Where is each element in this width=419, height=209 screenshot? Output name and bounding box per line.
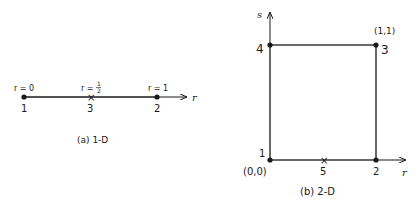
square-element [270, 45, 376, 160]
node-3-param-denominator: 2 [97, 87, 101, 94]
node-2-label-2d: 2 [373, 166, 379, 177]
s-axis-label: s [257, 9, 262, 20]
node-1-coord: (0,0) [243, 166, 267, 177]
node-3-dot [373, 42, 378, 47]
diagram-canvas: r r = 0 1 × r = 1 2 3 r = 1 2 (a) 1-D s … [0, 0, 419, 209]
node-1-param: r = 0 [14, 84, 34, 93]
node-2-param: r = 1 [148, 84, 168, 93]
caption-1d: (a) 1-D [77, 135, 108, 145]
r-axis-label-1d: r [192, 92, 198, 103]
r-axis-label-2d: r [402, 167, 408, 178]
node-1-dot [21, 94, 26, 99]
node-2-dot-2d [373, 157, 378, 162]
node-1-label: 1 [21, 103, 27, 114]
node-5-label: 5 [320, 166, 326, 177]
node-4-label: 4 [256, 42, 264, 56]
diagram-1d: r r = 0 1 × r = 1 2 3 r = 1 2 (a) 1-D [14, 80, 198, 145]
node-5-x-marker: × [320, 155, 328, 166]
node-1-dot-2d [267, 157, 272, 162]
node-1-label-2d: 1 [259, 148, 265, 159]
node-3-x-marker: × [87, 92, 95, 103]
caption-2d: (b) 2-D [300, 186, 335, 197]
diagram-2d: s r 4 3 (1,1) 1 (0,0) × 5 2 (b) 2-D [243, 9, 408, 197]
node-3-label: 3 [87, 103, 93, 114]
node-2-dot [154, 94, 159, 99]
node-4-dot [267, 42, 272, 47]
node-3-label-2d: 3 [381, 43, 389, 57]
node-3-coord: (1,1) [374, 26, 395, 36]
node-3-param-numerator: 1 [97, 80, 101, 87]
node-3-param-prefix: r = [81, 84, 94, 93]
node-2-label: 2 [154, 103, 160, 114]
